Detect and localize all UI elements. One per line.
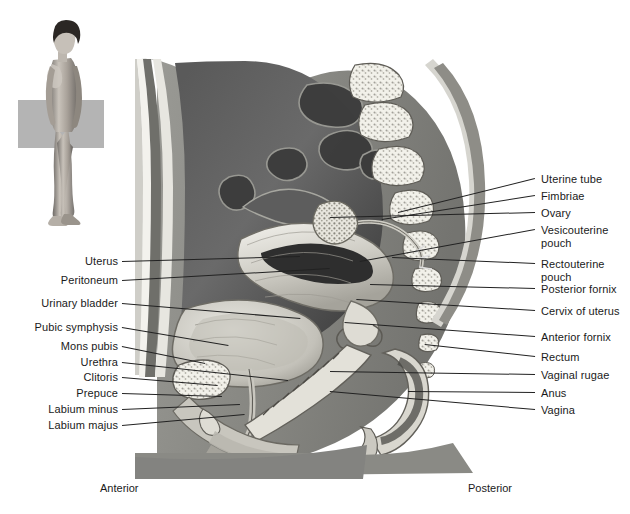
label-pubic-symphysis: Pubic symphysis: [35, 321, 118, 334]
label-urinary-bladder: Urinary bladder: [41, 297, 118, 310]
label-posterior-fornix: Posterior fornix: [541, 283, 617, 296]
midsagittal-section-illustration: [133, 57, 488, 479]
label-cervix-of-uterus: Cervix of uterus: [541, 305, 620, 318]
label-labium-majus: Labium majus: [48, 419, 118, 432]
label-uterine-tube: Uterine tube: [541, 173, 602, 186]
label-vaginal-rugae: Vaginal rugae: [541, 369, 609, 382]
label-line2: pouch: [541, 271, 605, 284]
posterior-direction-label: Posterior: [468, 482, 512, 494]
label-fimbriae: Fimbriae: [541, 190, 585, 203]
label-rectum: Rectum: [541, 351, 580, 364]
anterior-direction-label: Anterior: [100, 482, 139, 494]
standing-female-figure-icon: [14, 8, 124, 228]
label-ovary: Ovary: [541, 207, 571, 220]
label-anterior-fornix: Anterior fornix: [541, 331, 611, 344]
label-vesicouterine: Vesicouterinepouch: [541, 224, 608, 249]
label-urethra: Urethra: [81, 356, 118, 369]
label-clitoris: Clitoris: [84, 371, 118, 384]
label-anus: Anus: [541, 387, 566, 400]
label-rectouterine: Rectouterinepouch: [541, 258, 605, 283]
label-uterus: Uterus: [85, 255, 118, 268]
label-line2: pouch: [541, 237, 608, 250]
figure-canvas: UterusPeritoneumUrinary bladderPubic sym…: [0, 0, 630, 514]
orientation-figure: [14, 8, 124, 228]
label-vagina: Vagina: [541, 404, 575, 417]
label-prepuce: Prepuce: [76, 387, 118, 400]
label-peritoneum: Peritoneum: [61, 274, 118, 287]
label-labium-minus: Labium minus: [48, 403, 118, 416]
label-mons-pubis: Mons pubis: [61, 340, 118, 353]
